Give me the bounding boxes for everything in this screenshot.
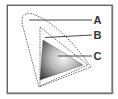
gamut-diagram: A B C [0, 0, 118, 99]
label-c: C [94, 50, 102, 62]
label-b: B [94, 29, 102, 41]
label-a: A [94, 14, 102, 26]
